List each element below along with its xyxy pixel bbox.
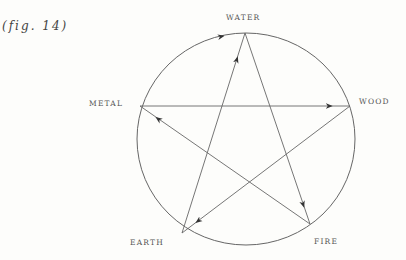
edge-earth-water bbox=[182, 33, 245, 233]
node-label-fire: FIRE bbox=[314, 237, 338, 246]
five-elements-diagram bbox=[0, 0, 406, 260]
node-label-metal: METAL bbox=[89, 99, 123, 108]
node-label-wood: WOOD bbox=[359, 97, 390, 106]
cycle-circle bbox=[137, 33, 355, 245]
node-label-water: WATER bbox=[226, 13, 260, 22]
edge-fire-metal bbox=[140, 106, 310, 224]
figure-page: (fig. 14) WATER WOOD FIRE EARTH METAL bbox=[0, 0, 406, 260]
node-label-earth: EARTH bbox=[130, 238, 164, 247]
edge-water-fire bbox=[245, 33, 310, 224]
edge-wood-earth bbox=[182, 106, 350, 233]
